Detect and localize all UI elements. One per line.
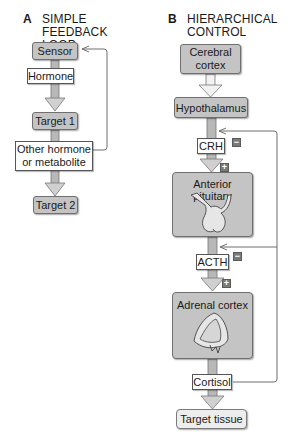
adrenal-cortex-node: Adrenal cortex	[172, 292, 253, 359]
anterior-pituitary-node: Anterior pituitary	[172, 172, 253, 237]
stimulation-plus-icon: +	[220, 163, 229, 172]
sensor-node: Sensor	[32, 42, 78, 60]
target-1-node: Target 1	[32, 112, 78, 130]
target-2-node: Target 2	[33, 196, 78, 214]
acth-label: ACTH	[196, 254, 229, 270]
panel-b-letter: B	[168, 13, 177, 26]
crh-label: CRH	[197, 138, 225, 154]
panel-b-title: B HIERARCHICAL CONTROL	[168, 13, 288, 41]
cortisol-label: Cortisol	[192, 374, 232, 390]
hypothalamus-node: Hypothalamus	[174, 97, 248, 118]
other-hormone-label: Other hormone or metabolite	[15, 141, 93, 171]
panel-b-heading: HIERARCHICAL CONTROL	[187, 13, 278, 39]
inhibition-minus-icon: −	[233, 252, 242, 261]
hormone-label: Hormone	[27, 68, 74, 84]
cerebral-cortex-node: Cerebral cortex	[180, 44, 241, 74]
target-tissue-node: Target tissue	[176, 409, 247, 429]
panel-a-letter: A	[23, 13, 32, 26]
adrenal-cortex-label: Adrenal cortex	[173, 299, 252, 311]
pituitary-gland-icon	[185, 191, 245, 235]
panel-a-title: A SIMPLE FEEDBACK LOOP	[23, 13, 143, 41]
stimulation-plus-icon: +	[222, 279, 231, 288]
inhibition-minus-icon: −	[232, 138, 241, 147]
adrenal-gland-icon	[190, 311, 240, 357]
